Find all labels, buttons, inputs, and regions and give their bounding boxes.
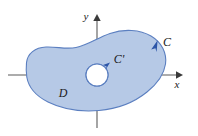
inner-hole-circle [86, 64, 108, 86]
outer-curve-label: C [163, 35, 172, 49]
y-axis-label: y [83, 10, 89, 22]
y-axis-arrowhead [93, 14, 100, 21]
x-axis-label: x [174, 78, 180, 90]
inner-curve-label: C' [114, 52, 125, 66]
region-with-hole-diagram: y x C C' D [0, 0, 198, 136]
region-label: D [58, 86, 68, 100]
figure-canvas: y x C C' D [0, 0, 198, 136]
